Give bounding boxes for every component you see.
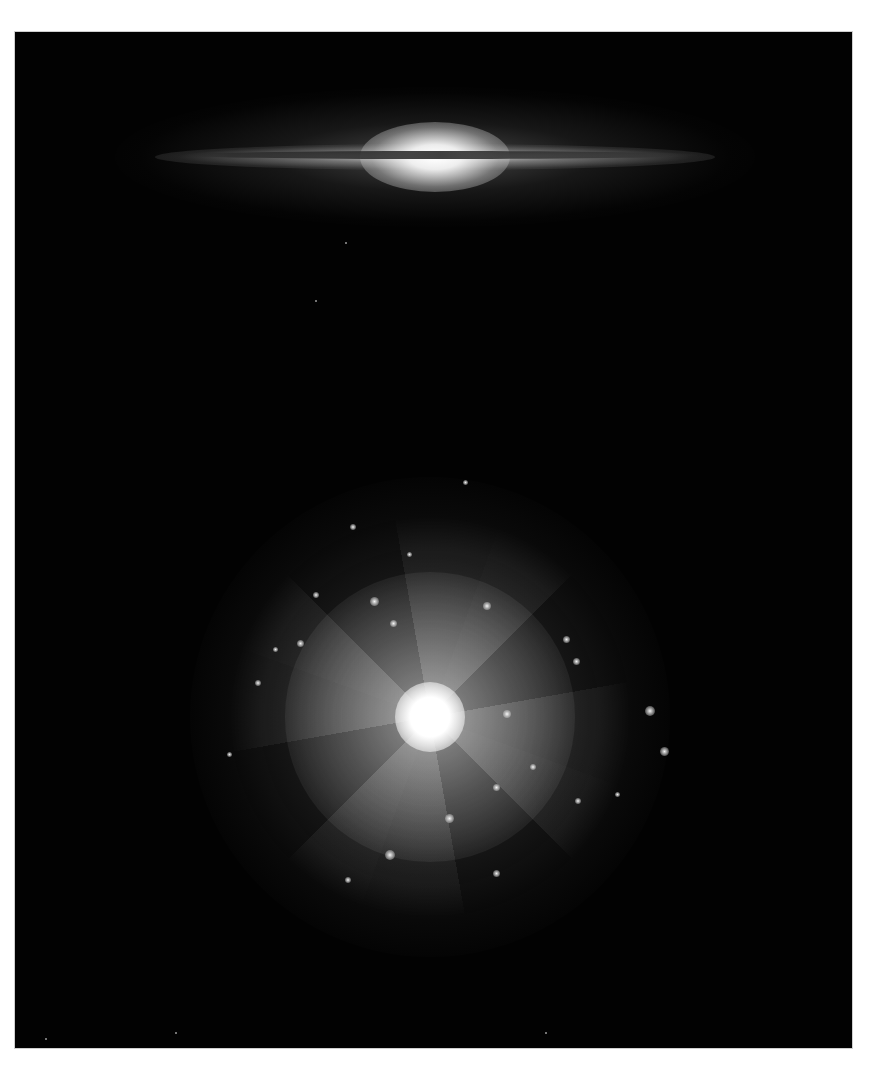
face-on-spiral-galaxy (15, 32, 852, 1048)
image-frame (15, 32, 852, 1048)
hii-region (345, 877, 351, 883)
hii-region (273, 647, 278, 652)
hii-region (297, 640, 304, 647)
hii-region (227, 752, 232, 757)
hii-region (615, 792, 620, 797)
hii-region (445, 814, 454, 823)
background-star (545, 1032, 547, 1034)
hii-region (350, 524, 356, 530)
background-star (45, 1038, 47, 1040)
hii-region (255, 680, 261, 686)
hii-region (573, 658, 580, 665)
hii-region (483, 602, 491, 610)
hii-region (385, 850, 395, 860)
background-star (345, 242, 347, 244)
background-star (315, 300, 317, 302)
hii-region (563, 636, 570, 643)
hii-region (407, 552, 412, 557)
hii-region (390, 620, 397, 627)
spiral-core (395, 682, 465, 752)
hii-region (575, 798, 581, 804)
hii-region (370, 597, 379, 606)
background-star (175, 1032, 177, 1034)
hii-region (660, 747, 669, 756)
hii-region (645, 706, 655, 716)
hii-region (530, 764, 536, 770)
hii-region (503, 710, 511, 718)
hii-region (463, 480, 468, 485)
hii-region (493, 784, 500, 791)
hii-region (493, 870, 500, 877)
hii-region (313, 592, 319, 598)
